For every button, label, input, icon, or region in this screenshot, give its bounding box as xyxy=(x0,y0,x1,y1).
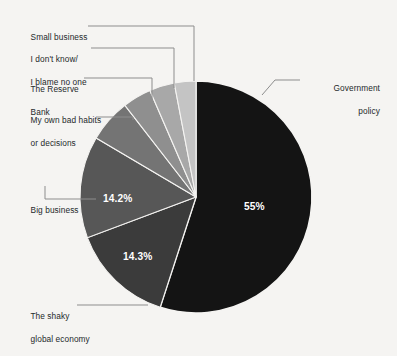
slice-label-line-2: global economy xyxy=(31,334,90,344)
slice-value-big-business: 14.2% xyxy=(103,193,132,204)
pie-chart-figure: Small business I don't know/ I blame no … xyxy=(0,0,397,356)
slice-label-line-1: Government xyxy=(334,83,380,93)
slice-label-line-1: Big business xyxy=(31,205,79,215)
slice-label-line-1: I don't know/ xyxy=(31,54,78,64)
leader-line xyxy=(91,48,174,88)
slice-label-line-1: Small business xyxy=(31,32,88,42)
slice-label-line-2: or decisions xyxy=(31,138,76,148)
slice-value-shaky-global-economy: 14.3% xyxy=(123,251,152,262)
slice-label-my-own-bad-habits: My own bad habits or decisions xyxy=(21,104,101,161)
slice-label-line-1: The Reserve xyxy=(30,84,78,94)
leader-line xyxy=(88,26,194,81)
slice-label-line-1: My own bad habits xyxy=(31,115,102,125)
slice-label-line-2: policy xyxy=(358,106,380,116)
slice-label-big-business: Big business xyxy=(21,194,79,228)
slice-value-government-policy: 55% xyxy=(244,201,265,212)
slice-label-line-1: The shaky xyxy=(30,311,69,321)
leader-line xyxy=(262,80,300,95)
slice-label-shaky-global-economy: The shaky global economy xyxy=(21,300,90,356)
slice-label-government-policy: Government policy xyxy=(300,72,380,129)
